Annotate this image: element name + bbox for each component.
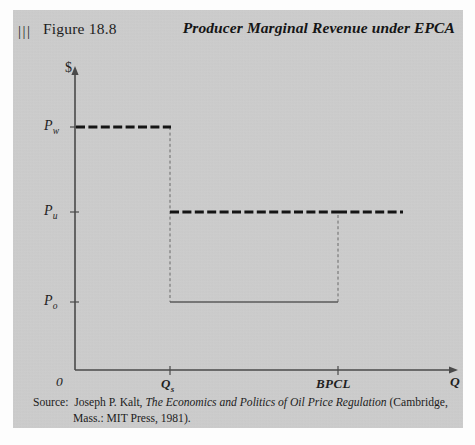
x-tick-qs-sub: s [171,384,175,394]
y-tick-po-sub: o [53,301,58,311]
y-tick-label-po: Po [44,293,58,311]
source-work-title: The Economics and Politics of Oil Price … [145,396,386,409]
y-axis-title: $ [65,60,72,76]
y-tick-label-pw: Pw [44,118,59,136]
y-tick-pw-base: P [44,118,53,133]
x-tick-label-bpcl: BPCL [316,376,351,392]
y-tick-label-pu: Pu [44,203,58,221]
x-tick-bpcl-base: BPCL [316,376,351,391]
y-axis [71,66,78,370]
y-tick-pw-sub: w [53,126,60,136]
chart-plot-area: $ Pw Pu Po 0 Qs BPCL Q [13,10,463,390]
source-note: Source: Joseph P. Kalt, The Economics an… [33,395,453,428]
y-tick-pu-base: P [44,203,53,218]
x-tick-qs-base: Q [161,376,171,391]
figure-page: ||| Figure 18.8 Producer Marginal Revenu… [0,0,475,445]
x-axis [75,366,458,373]
source-label: Source: [33,396,68,409]
source-note-line-2: Mass.: MIT Press, 1981). [33,411,453,427]
x-axis-title: Q [450,374,460,390]
y-tick-pu-sub: u [53,211,58,221]
x-tick-label-qs: Qs [161,376,175,394]
source-publication: (Cambridge, [390,396,448,409]
figure-panel: ||| Figure 18.8 Producer Marginal Revenu… [13,10,463,428]
y-tick-po-base: P [44,293,53,308]
source-author: Joseph P. Kalt, [74,396,142,409]
origin-label: 0 [56,374,63,390]
source-note-line-1: Source: Joseph P. Kalt, The Economics an… [33,395,453,411]
chart-svg [13,10,463,390]
